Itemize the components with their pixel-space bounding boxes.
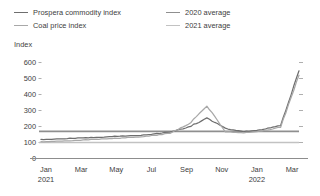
x-tick-label-month: Jan <box>40 165 52 174</box>
x-tick-label-month: May <box>109 165 123 174</box>
y-tick-label: 400 <box>24 90 36 99</box>
x-tick-label-month: Jan <box>251 165 263 174</box>
commodity-index-chart: Prospera commodity index 2020 average Co… <box>0 0 320 196</box>
x-tick-label-month: Nov <box>215 165 228 174</box>
plot-area: 6005004003002001000 Jan2021MarMayJulSepN… <box>0 0 320 196</box>
y-tick-label: 200 <box>24 122 36 131</box>
y-tick-label: 600 <box>24 58 36 67</box>
x-tick-label-month: Mar <box>75 165 88 174</box>
x-tick-label-month: Sep <box>180 165 193 174</box>
x-tick-label-year: 2021 <box>38 175 54 184</box>
y-axis-ticks: 6005004003002001000 <box>24 58 303 163</box>
x-axis-ticks: Jan2021MarMayJulSepNovJan2022Mar <box>38 165 299 184</box>
x-tick-label-month: Jul <box>147 165 157 174</box>
y-tick-label: 300 <box>24 106 36 115</box>
x-tick-label-month: Mar <box>286 165 299 174</box>
x-tick-label-year: 2022 <box>249 175 265 184</box>
y-tick-group: 6005004003002001000 <box>24 58 303 163</box>
series-line-prospera-commodity-index <box>41 71 299 140</box>
y-tick-label: 100 <box>24 138 36 147</box>
y-tick-label: 500 <box>24 74 36 83</box>
